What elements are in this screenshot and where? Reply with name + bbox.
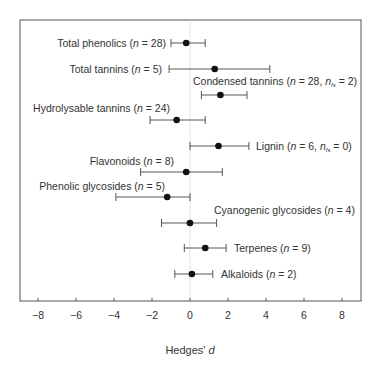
row-label: Condensed tannins (n = 28, nfs = 2) — [193, 75, 357, 88]
x-tick-label: −8 — [32, 309, 44, 321]
x-tick-label: 4 — [263, 309, 269, 321]
x-tick-label: 8 — [339, 309, 345, 321]
forest-row: Cyanogenic glycosides (n = 4) — [162, 204, 355, 227]
forest-row: Total tannins (n = 5) — [69, 63, 269, 75]
forest-row: Condensed tannins (n = 28, nfs = 2) — [193, 75, 357, 99]
estimate-point — [215, 143, 222, 150]
estimate-point — [202, 245, 209, 252]
forest-row: Hydrolysable tannins (n = 24) — [33, 102, 205, 124]
forest-row: Flavonoids (n = 8) — [90, 155, 223, 176]
estimate-point — [187, 220, 194, 227]
estimate-point — [211, 66, 218, 73]
x-tick-label: 2 — [225, 309, 231, 321]
x-tick-label: 0 — [187, 309, 193, 321]
forest-row: Terpenes (n = 9) — [184, 242, 310, 254]
estimate-point — [217, 92, 224, 99]
x-tick-label: −2 — [146, 309, 158, 321]
forest-row: Lignin (n = 6, nfs = 0) — [190, 140, 352, 153]
x-tick-label: 6 — [301, 309, 307, 321]
x-tick-label: −4 — [108, 309, 120, 321]
row-label: Lignin (n = 6, nfs = 0) — [256, 140, 352, 153]
forest-rows: Total phenolics (n = 28)Total tannins (n… — [33, 37, 357, 280]
row-label: Total phenolics (n = 28) — [57, 37, 166, 49]
row-label: Flavonoids (n = 8) — [90, 155, 174, 167]
x-tick-label: −6 — [70, 309, 82, 321]
estimate-point — [183, 40, 190, 47]
row-label: Alkaloids (n = 2) — [221, 268, 297, 280]
row-label: Total tannins (n = 5) — [69, 63, 162, 75]
estimate-point — [183, 169, 190, 176]
estimate-point — [173, 117, 180, 124]
forest-row: Phenolic glycosides (n = 5) — [39, 180, 190, 201]
row-label: Hydrolysable tannins (n = 24) — [33, 102, 170, 114]
row-label: Terpenes (n = 9) — [234, 242, 311, 254]
row-label: Cyanogenic glycosides (n = 4) — [214, 204, 355, 216]
row-label: Phenolic glycosides (n = 5) — [39, 180, 165, 192]
estimate-point — [189, 271, 196, 278]
forest-plot: Total phenolics (n = 28)Total tannins (n… — [0, 0, 378, 371]
x-axis-label: Hedges' d — [165, 344, 215, 356]
estimate-point — [164, 194, 171, 201]
forest-row: Total phenolics (n = 28) — [57, 37, 205, 49]
forest-row: Alkaloids (n = 2) — [175, 268, 297, 280]
